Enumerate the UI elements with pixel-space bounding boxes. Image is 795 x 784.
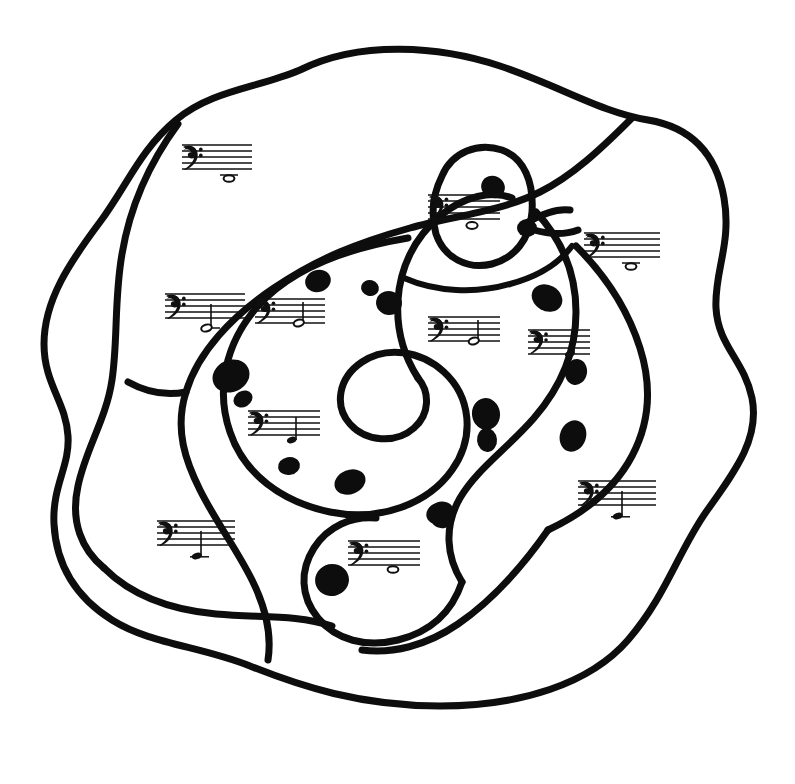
bass-clef-icon [166, 295, 185, 319]
half-note-head [200, 323, 212, 333]
staff-centre [428, 317, 500, 346]
snake-illustration [0, 0, 795, 784]
whole-note-head [224, 175, 235, 182]
bass-clef-icon [183, 146, 202, 170]
whole-note-head [466, 222, 477, 229]
spot-9 [470, 396, 502, 432]
spot-14 [476, 427, 498, 453]
bass-clef-icon [158, 522, 177, 546]
spot-13 [277, 455, 302, 477]
spot-16 [359, 278, 381, 298]
spot-6 [312, 561, 352, 599]
half-note-head [468, 336, 480, 345]
whole-note-head [388, 566, 399, 573]
staff-upper-left [182, 145, 252, 182]
body-coil-outer-arc [181, 118, 632, 660]
staff-mid-left [165, 294, 245, 333]
body-coil-left-lobe [76, 124, 178, 568]
artwork-canvas: Coiled Spotted Snake with Bass Clef Stav… [0, 0, 795, 784]
spot-10 [555, 417, 590, 456]
whole-note-head [626, 263, 637, 270]
tongue-knot [517, 219, 537, 237]
staff-mid-left-inner [255, 299, 325, 328]
body-left-notch [128, 382, 186, 394]
spot-4 [331, 465, 370, 499]
half-note-head [293, 318, 305, 327]
staff-lower-centre [348, 541, 420, 573]
staff-inner-coil [248, 411, 320, 444]
spot-8 [527, 279, 568, 318]
body-lower-left-sweep [104, 568, 332, 626]
staff-lower-left [157, 521, 235, 561]
staff-centre-right [528, 330, 590, 358]
